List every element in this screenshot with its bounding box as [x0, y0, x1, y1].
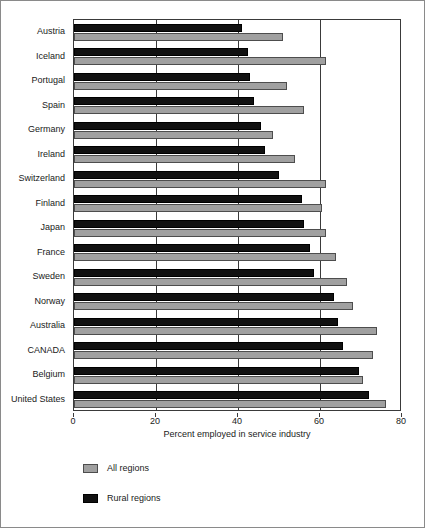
bar-rural-regions: [74, 97, 254, 105]
bar-row: [74, 192, 400, 217]
legend-label-all-regions: All regions: [107, 463, 149, 473]
bar-rural-regions: [74, 367, 359, 375]
bar-rural-regions: [74, 220, 304, 228]
bar-rural-regions: [74, 269, 314, 277]
bar-row: [74, 69, 400, 94]
bar-rural-regions: [74, 244, 310, 252]
bar-all-regions: [74, 400, 386, 408]
plot-area: [73, 19, 401, 411]
bar-rural-regions: [74, 293, 334, 301]
category-label-united-states: United States: [11, 394, 65, 404]
bar-rural-regions: [74, 391, 369, 399]
legend-swatch-rural-regions: [83, 494, 98, 503]
chart-figure: AustriaIcelandPortugalSpainGermanyIrelan…: [0, 0, 425, 528]
bar-all-regions: [74, 302, 353, 310]
chart-legend: All regions Rural regions: [83, 463, 161, 523]
bar-row: [74, 20, 400, 45]
bar-all-regions: [74, 278, 347, 286]
bar-all-regions: [74, 180, 326, 188]
bar-rural-regions: [74, 48, 248, 56]
bar-all-regions: [74, 106, 304, 114]
legend-label-rural-regions: Rural regions: [107, 493, 161, 503]
bar-row: [74, 167, 400, 192]
category-label-australia: Australia: [30, 320, 65, 330]
bar-row: [74, 290, 400, 315]
bar-all-regions: [74, 204, 322, 212]
bar-row: [74, 339, 400, 364]
x-axis-title: Percent employed in service industry: [73, 429, 401, 439]
bar-row: [74, 143, 400, 168]
category-label-sweden: Sweden: [32, 271, 65, 281]
category-label-switzerland: Switzerland: [18, 173, 65, 183]
bar-rural-regions: [74, 318, 338, 326]
bar-all-regions: [74, 351, 373, 359]
bar-all-regions: [74, 327, 377, 335]
bar-rural-regions: [74, 122, 261, 130]
bar-all-regions: [74, 57, 326, 65]
bar-row: [74, 363, 400, 388]
x-axis: 020406080: [73, 411, 401, 412]
category-label-ireland: Ireland: [37, 149, 65, 159]
category-label-belgium: Belgium: [32, 369, 65, 379]
category-axis-labels: AustriaIcelandPortugalSpainGermanyIrelan…: [1, 19, 69, 411]
bar-row: [74, 45, 400, 70]
bar-row: [74, 241, 400, 266]
bar-rows: [74, 20, 400, 410]
category-label-norway: Norway: [34, 296, 65, 306]
bar-row: [74, 216, 400, 241]
bar-all-regions: [74, 82, 287, 90]
x-tick-label-60: 60: [314, 416, 324, 426]
bar-all-regions: [74, 376, 363, 384]
category-label-canada: CANADA: [27, 345, 65, 355]
x-tick-label-20: 20: [150, 416, 160, 426]
category-label-germany: Germany: [28, 124, 65, 134]
category-label-portugal: Portugal: [31, 75, 65, 85]
bar-all-regions: [74, 253, 336, 261]
category-label-austria: Austria: [37, 26, 65, 36]
bar-row: [74, 314, 400, 339]
bar-row: [74, 94, 400, 119]
category-label-finland: Finland: [35, 198, 65, 208]
bar-row: [74, 265, 400, 290]
category-label-france: France: [37, 247, 65, 257]
bar-rural-regions: [74, 73, 250, 81]
legend-item-rural-regions: Rural regions: [83, 493, 161, 503]
bar-row: [74, 388, 400, 413]
bar-rural-regions: [74, 195, 302, 203]
bar-rural-regions: [74, 146, 265, 154]
x-tick-label-0: 0: [70, 416, 75, 426]
bar-all-regions: [74, 131, 273, 139]
bar-row: [74, 118, 400, 143]
x-tick-label-40: 40: [232, 416, 242, 426]
bar-rural-regions: [74, 171, 279, 179]
legend-swatch-all-regions: [83, 464, 98, 473]
bar-rural-regions: [74, 342, 343, 350]
x-tick-label-80: 80: [396, 416, 406, 426]
bar-all-regions: [74, 155, 295, 163]
category-label-spain: Spain: [42, 100, 65, 110]
category-label-iceland: Iceland: [36, 51, 65, 61]
bar-rural-regions: [74, 24, 242, 32]
bar-all-regions: [74, 229, 326, 237]
category-label-japan: Japan: [40, 222, 65, 232]
bar-all-regions: [74, 33, 283, 41]
legend-item-all-regions: All regions: [83, 463, 161, 473]
